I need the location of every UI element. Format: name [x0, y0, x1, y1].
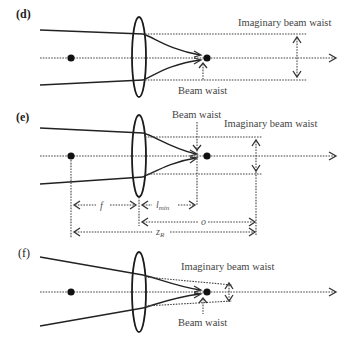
- incident-beam-top: [40, 30, 143, 34]
- beam-waist-label: Beam waist: [172, 109, 221, 120]
- arrow-down-icon: [225, 295, 233, 301]
- dim-o-label: o: [201, 216, 206, 227]
- panel-e: (e) Beam waist Imaginary beam waist f: [16, 109, 336, 239]
- beam-waist-label: Beam waist: [178, 317, 227, 328]
- dim-zr-label: zR: [155, 226, 165, 239]
- imaginary-beam-waist-label: Imaginary beam waist: [238, 17, 331, 28]
- incident-beam-top: [40, 257, 143, 275]
- beam-waist-label: Beam waist: [178, 85, 227, 96]
- back-focal-point: [203, 54, 210, 61]
- imaginary-beam-waist-label: Imaginary beam waist: [224, 118, 317, 129]
- incident-beam-top: [40, 128, 143, 133]
- imaginary-beam-top: [145, 277, 232, 285]
- arrow-down-icon: [252, 165, 260, 171]
- converging-beam-top: [143, 34, 200, 55]
- beam-arrow-icon: [194, 293, 201, 298]
- back-focal-point: [203, 152, 210, 159]
- incident-beam-bottom: [40, 80, 143, 85]
- front-focal-point: [67, 152, 74, 159]
- imaginary-beam-waist-label: Imaginary beam waist: [181, 261, 274, 272]
- converging-beam-bottom: [143, 60, 200, 80]
- dim-lmin-label: lmin: [156, 199, 170, 212]
- panel-label-e: (e): [16, 110, 29, 124]
- incident-beam-bottom: [40, 177, 143, 184]
- panel-f: (f) Imaginary beam waist Beam waist: [18, 246, 336, 332]
- beam-waist-diagram: (d) Imaginary beam waist Beam waist: [0, 0, 355, 348]
- back-focal-point: [203, 288, 210, 295]
- beam-arrow-icon: [190, 157, 197, 163]
- front-focal-point: [67, 288, 74, 295]
- converging-beam-top: [143, 133, 196, 154]
- panel-label-d: (d): [16, 7, 31, 21]
- dim-f-label: f: [100, 200, 104, 211]
- panel-label-f: (f): [18, 246, 30, 260]
- front-focal-point: [67, 54, 74, 61]
- incident-beam-bottom: [40, 308, 143, 326]
- panel-d: (d) Imaginary beam waist Beam waist: [16, 7, 336, 97]
- arrow-right-icon: [249, 218, 255, 226]
- lens: [132, 17, 146, 97]
